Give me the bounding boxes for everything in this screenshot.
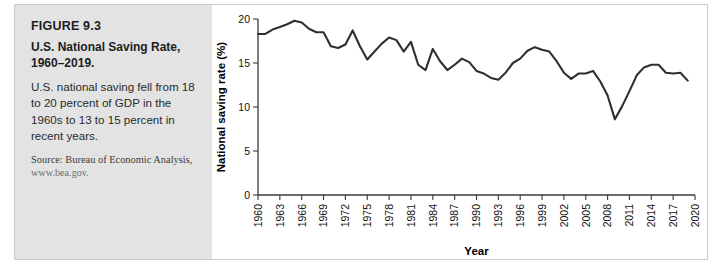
y-axis-title: National saving rate (%) xyxy=(215,42,227,173)
x-tick-label: 2005 xyxy=(580,204,592,228)
figure-source-url: www.bea.gov. xyxy=(31,166,196,179)
x-tick-label: 1963 xyxy=(274,204,286,228)
figure-description: U.S. national saving fell from 18 to 20 … xyxy=(31,79,196,145)
y-axis: 05101520 xyxy=(238,13,258,201)
line-chart: 05101520 1960196319661969197219751978198… xyxy=(212,5,707,259)
x-tick-label: 1999 xyxy=(536,204,548,228)
figure-title: U.S. National Saving Rate, 1960–2019. xyxy=(31,40,196,72)
y-tick-label: 20 xyxy=(238,13,250,25)
y-tick-label: 10 xyxy=(238,101,250,113)
caption-panel: FIGURE 9.3 U.S. National Saving Rate, 19… xyxy=(15,5,212,259)
x-tick-label: 1966 xyxy=(296,204,308,228)
y-tick-label: 0 xyxy=(244,189,250,201)
x-tick-label: 1978 xyxy=(383,204,395,228)
x-axis: 1960196319661969197219751978198119841987… xyxy=(252,195,701,227)
x-tick-label: 2020 xyxy=(689,204,701,228)
x-tick-label: 1975 xyxy=(361,204,373,228)
x-tick-label: 1960 xyxy=(252,204,264,228)
x-axis-title: Year xyxy=(464,245,489,257)
x-tick-label: 2011 xyxy=(623,204,635,227)
figure-number: FIGURE 9.3 xyxy=(31,19,196,33)
x-tick-label: 2002 xyxy=(558,204,570,228)
chart-panel: 05101520 1960196319661969197219751978198… xyxy=(212,5,707,259)
x-tick-label: 2017 xyxy=(667,204,679,228)
x-tick-label: 1996 xyxy=(514,204,526,228)
x-tick-label: 1984 xyxy=(427,204,439,228)
x-tick-label: 1972 xyxy=(339,204,351,228)
series-line xyxy=(258,21,688,120)
x-tick-label: 1987 xyxy=(448,204,460,228)
x-tick-label: 2008 xyxy=(601,204,613,228)
data-series xyxy=(258,21,688,120)
x-tick-label: 1981 xyxy=(405,204,417,228)
figure-container: FIGURE 9.3 U.S. National Saving Rate, 19… xyxy=(14,4,708,260)
x-tick-label: 1990 xyxy=(470,204,482,228)
figure-source: Source: Bureau of Economic Analysis, xyxy=(31,153,196,167)
x-tick-label: 1993 xyxy=(492,204,504,228)
x-tick-label: 2014 xyxy=(645,204,657,228)
y-tick-label: 5 xyxy=(244,145,250,157)
x-tick-label: 1969 xyxy=(317,204,329,228)
y-tick-label: 15 xyxy=(238,57,250,69)
